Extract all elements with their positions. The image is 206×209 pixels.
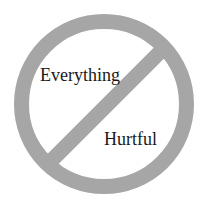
label-hurtful: Hurtful — [104, 130, 157, 148]
label-everything: Everything — [40, 66, 120, 84]
prohibition-icon — [0, 0, 206, 209]
prohibition-sign-figure: Everything Hurtful — [0, 0, 206, 209]
